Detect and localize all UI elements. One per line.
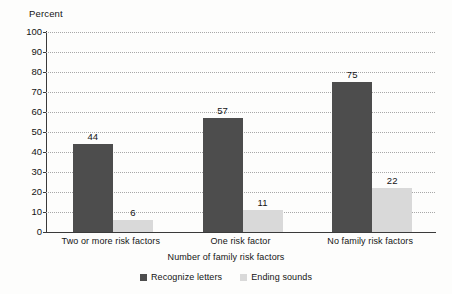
bar <box>372 188 412 232</box>
gridline <box>46 52 435 53</box>
y-axis-tick-label: 90 <box>2 47 42 57</box>
chart-legend: Recognize lettersEnding sounds <box>0 272 452 282</box>
bar <box>243 210 283 232</box>
y-axis-tick-label: 80 <box>2 67 42 77</box>
legend-item: Recognize letters <box>140 272 222 282</box>
legend-label: Recognize letters <box>151 272 222 282</box>
x-axis-category-label: One risk factor <box>176 236 306 246</box>
y-axis-tick-label: 50 <box>2 127 42 137</box>
y-axis-title: Percent <box>29 8 63 19</box>
y-axis-tick-label: 10 <box>2 207 42 217</box>
gridline <box>46 72 435 73</box>
bar-value-label: 11 <box>243 198 283 208</box>
bar-chart: Percent 1009080706050403020100 446571175… <box>0 0 452 294</box>
legend-item: Ending sounds <box>240 272 312 282</box>
bar <box>332 82 372 232</box>
x-axis-category-label: Two or more risk factors <box>46 236 176 246</box>
gridline <box>46 92 435 93</box>
bar <box>113 220 153 232</box>
y-axis-tick-label: 70 <box>2 87 42 97</box>
x-axis-line <box>46 232 436 233</box>
y-axis-tick-label: 40 <box>2 147 42 157</box>
y-axis-tick-mark <box>43 232 46 233</box>
plot-area: 44657117522 <box>46 32 435 232</box>
legend-swatch-icon <box>240 274 247 281</box>
x-axis-category-label: No family risk factors <box>305 236 435 246</box>
y-axis-tick-label: 30 <box>2 167 42 177</box>
y-axis-tick-label: 20 <box>2 187 42 197</box>
legend-label: Ending sounds <box>251 272 312 282</box>
bar <box>203 118 243 232</box>
bar <box>73 144 113 232</box>
y-axis-tick-label: 60 <box>2 107 42 117</box>
bar-value-label: 57 <box>203 106 243 116</box>
y-axis-tick-label: 0 <box>2 227 42 237</box>
bar-value-label: 75 <box>332 70 372 80</box>
bar-value-label: 22 <box>372 176 412 186</box>
legend-swatch-icon <box>140 274 147 281</box>
x-axis-title: Number of family risk factors <box>0 252 452 262</box>
y-axis-tick-label: 100 <box>2 27 42 37</box>
bar-value-label: 6 <box>113 208 153 218</box>
bar-value-label: 44 <box>73 132 113 142</box>
y-axis-ticks: 1009080706050403020100 <box>0 32 42 232</box>
gridline <box>46 32 435 33</box>
